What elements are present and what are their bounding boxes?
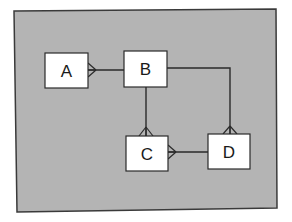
er-diagram: A B C D	[0, 0, 292, 222]
entity-c[interactable]: C	[126, 136, 168, 171]
entity-b[interactable]: B	[124, 51, 167, 87]
entity-label: A	[61, 62, 73, 81]
entity-a[interactable]: A	[45, 53, 88, 88]
entity-label: B	[140, 60, 151, 79]
entity-d[interactable]: D	[208, 134, 250, 169]
entity-label: D	[223, 143, 235, 162]
entity-label: C	[141, 145, 153, 164]
